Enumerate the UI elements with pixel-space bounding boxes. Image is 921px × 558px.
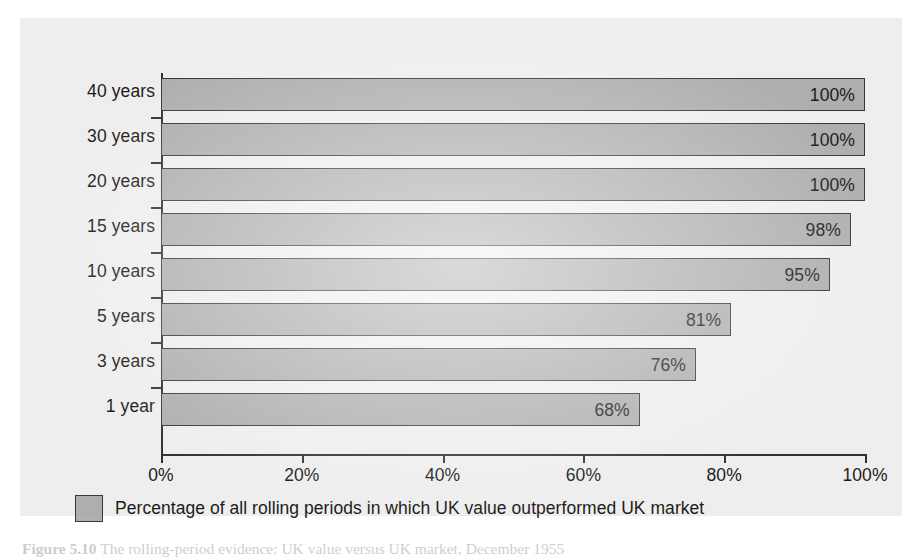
- y-axis-tick-label: 40 years: [20, 73, 155, 118]
- legend-label: Percentage of all rolling periods in whi…: [115, 498, 704, 519]
- x-axis-tick: [583, 454, 585, 463]
- x-axis-tick-label: 0%: [148, 465, 174, 486]
- bar-row: 81%: [161, 301, 865, 346]
- bar[interactable]: 100%: [161, 123, 865, 156]
- y-axis-category-labels: 40 years30 years20 years15 years10 years…: [20, 73, 155, 454]
- bar-value-label: 81%: [686, 309, 721, 330]
- x-axis-line: [161, 454, 867, 456]
- bar[interactable]: 100%: [161, 168, 865, 201]
- y-axis-tick: [151, 162, 161, 164]
- chart-legend: Percentage of all rolling periods in whi…: [75, 495, 704, 522]
- bar[interactable]: 98%: [161, 213, 851, 246]
- y-axis-tick-label: 15 years: [20, 208, 155, 253]
- bar-value-label: 100%: [810, 84, 855, 105]
- x-axis-tick-label: 100%: [842, 465, 887, 486]
- x-axis-tick-label: 60%: [566, 465, 601, 486]
- legend-swatch-icon: [75, 495, 103, 522]
- bar[interactable]: 81%: [161, 303, 731, 336]
- y-axis-tick-label: 30 years: [20, 118, 155, 163]
- bar-row: 100%: [161, 166, 865, 211]
- bar-value-label: 95%: [784, 264, 819, 285]
- figure-caption: Figure 5.10 The rolling-period evidence:…: [22, 540, 902, 558]
- y-axis-tick: [151, 252, 161, 254]
- x-axis-tick-label: 40%: [425, 465, 460, 486]
- bar-value-label: 68%: [594, 399, 629, 420]
- x-axis-tick: [302, 454, 304, 463]
- x-axis-tick: [724, 454, 726, 463]
- y-axis-tick-label: 20 years: [20, 163, 155, 208]
- y-axis-tick-label: 10 years: [20, 253, 155, 298]
- plot-area: 100%100%100%98%95%81%76%68%: [161, 73, 865, 454]
- bar-row: 100%: [161, 121, 865, 166]
- y-axis-tick: [151, 117, 161, 119]
- bar-row: 95%: [161, 256, 865, 301]
- bar[interactable]: 95%: [161, 258, 830, 291]
- bar-row: 76%: [161, 346, 865, 391]
- x-axis-tick: [161, 454, 163, 463]
- x-axis-tick: [443, 454, 445, 463]
- y-axis-tick: [151, 207, 161, 209]
- bar-row: 100%: [161, 76, 865, 121]
- figure-caption-text: Figure 5.10 The rolling-period evidence:…: [22, 540, 902, 558]
- bar-value-label: 100%: [810, 174, 855, 195]
- bar-value-label: 100%: [810, 129, 855, 150]
- figure-caption-body: The rolling-period evidence: UK value ve…: [100, 540, 564, 557]
- y-axis-tick: [151, 297, 161, 299]
- bar-row: 98%: [161, 211, 865, 256]
- x-axis-tick: [865, 454, 867, 463]
- y-axis-tick-label: 5 years: [20, 298, 155, 343]
- figure-caption-number: Figure 5.10: [22, 540, 97, 557]
- bar-value-label: 76%: [651, 354, 686, 375]
- bar[interactable]: 100%: [161, 78, 865, 111]
- bar-row: 68%: [161, 391, 865, 436]
- y-axis-tick-label: 1 year: [20, 388, 155, 433]
- x-axis-tick-label: 20%: [284, 465, 319, 486]
- y-axis-tick: [151, 387, 161, 389]
- x-axis-tick-label: 80%: [707, 465, 742, 486]
- bar[interactable]: 76%: [161, 348, 696, 381]
- bar[interactable]: 68%: [161, 393, 640, 426]
- bar-value-label: 98%: [806, 219, 841, 240]
- figure-panel: 40 years30 years20 years15 years10 years…: [20, 18, 902, 516]
- y-axis-tick-label: 3 years: [20, 343, 155, 388]
- y-axis-tick: [151, 342, 161, 344]
